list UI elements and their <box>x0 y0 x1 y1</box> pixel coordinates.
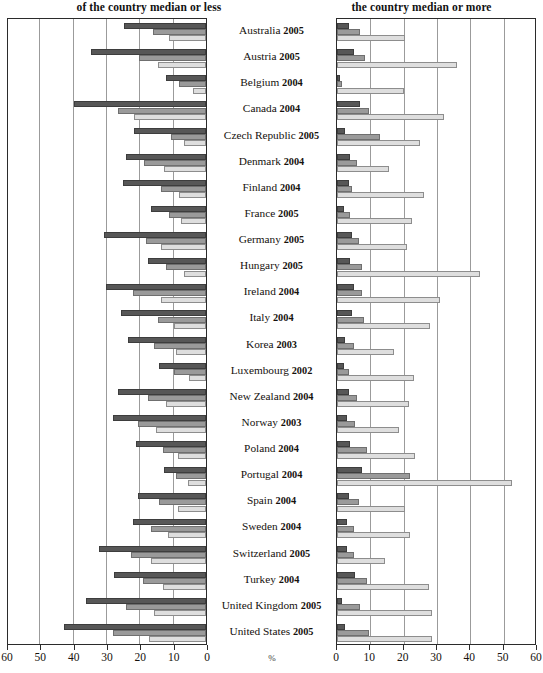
bar-left-sweden-series3 <box>168 532 206 538</box>
country-name: France <box>244 207 278 219</box>
country-name: Belgium <box>240 76 282 88</box>
bar-left-spain-series3 <box>178 506 206 512</box>
axis-tick-label: 10 <box>159 651 189 663</box>
gridline <box>39 19 40 644</box>
bar-right-korea-series2 <box>337 343 354 349</box>
country-label: Poland 2004 <box>207 442 336 455</box>
bar-left-hungary-series3 <box>184 271 206 277</box>
axis-tick <box>469 645 470 650</box>
bar-right-france-series1 <box>337 206 344 212</box>
bar-right-hungary-series3 <box>337 271 480 277</box>
bar-right-switzerland-series1 <box>337 546 347 552</box>
bar-right-hungary-series2 <box>337 264 362 270</box>
country-year: 2005 <box>299 130 320 141</box>
country-year: 2005 <box>293 626 314 637</box>
bar-left-poland-series2 <box>163 447 206 453</box>
axis-tick-label: 50 <box>25 651 55 663</box>
axis-tick-label: 60 <box>521 651 543 663</box>
bar-left-belgium-series3 <box>193 88 206 94</box>
country-label: United States 2005 <box>207 625 336 638</box>
bar-left-norway-series2 <box>138 421 206 427</box>
bar-right-united-kingdom-series3 <box>337 610 432 616</box>
left-plot-panel <box>7 18 207 645</box>
country-year: 2003 <box>276 339 297 350</box>
bar-right-poland-series3 <box>337 453 415 459</box>
country-name: Finland <box>243 181 280 193</box>
bar-left-switzerland-series3 <box>151 558 206 564</box>
bar-left-finland-series3 <box>179 192 206 198</box>
country-year: 2002 <box>292 365 313 376</box>
country-name: Sweden <box>242 520 281 532</box>
bar-left-portugal-series2 <box>176 473 206 479</box>
bar-left-spain-series1 <box>138 493 206 499</box>
country-label: Luxembourg 2002 <box>207 364 336 377</box>
right-plot-panel <box>336 18 536 645</box>
bar-right-finland-series1 <box>337 180 349 186</box>
bar-right-germany-series2 <box>337 238 359 244</box>
axis-tick-label: 20 <box>125 651 155 663</box>
bar-left-hungary-series2 <box>166 264 206 270</box>
bar-right-norway-series1 <box>337 415 347 421</box>
bar-right-sweden-series3 <box>337 532 410 538</box>
country-year: 2004 <box>282 77 303 88</box>
country-label: Ireland 2004 <box>207 285 336 298</box>
country-name: Denmark <box>239 155 284 167</box>
bar-left-turkey-series1 <box>114 572 206 578</box>
bidirectional-bar-chart: of the country median or less the countr… <box>0 0 543 673</box>
country-label: Austria 2005 <box>207 50 336 63</box>
country-year: 2004 <box>273 312 294 323</box>
axis-unit-label: % <box>257 653 287 663</box>
axis-tick <box>7 645 8 650</box>
country-label: France 2005 <box>207 207 336 220</box>
bar-left-denmark-series2 <box>144 160 206 166</box>
bar-left-united-states-series1 <box>64 624 206 630</box>
bar-right-canada-series2 <box>337 108 369 114</box>
bar-right-poland-series1 <box>337 441 350 447</box>
bar-right-turkey-series2 <box>337 578 367 584</box>
bar-left-australia-series2 <box>153 29 206 35</box>
axis-tick <box>403 645 404 650</box>
bar-right-italy-series2 <box>337 317 364 323</box>
gridline <box>470 19 471 644</box>
bar-left-italy-series3 <box>174 323 206 329</box>
bar-right-australia-series2 <box>337 29 360 35</box>
bar-left-new-zealand-series2 <box>148 395 206 401</box>
axis-tick-label: 40 <box>454 651 484 663</box>
bar-right-ireland-series3 <box>337 297 440 303</box>
bar-left-sweden-series2 <box>151 526 206 532</box>
bar-left-portugal-series1 <box>164 467 206 473</box>
bar-left-hungary-series1 <box>148 258 206 264</box>
country-name: Germany <box>239 233 284 245</box>
axis-tick <box>40 645 41 650</box>
axis-tick-label: 0 <box>192 651 222 663</box>
bar-left-korea-series3 <box>176 349 206 355</box>
bar-right-luxembourg-series2 <box>337 369 349 375</box>
bar-left-denmark-series3 <box>164 166 206 172</box>
country-label: Norway 2003 <box>207 416 336 429</box>
axis-tick <box>336 645 337 650</box>
bar-right-united-states-series2 <box>337 630 369 636</box>
bar-left-united-kingdom-series2 <box>126 604 206 610</box>
country-label: New Zealand 2004 <box>207 390 336 403</box>
bar-left-luxembourg-series3 <box>189 375 206 381</box>
bar-left-korea-series2 <box>154 343 206 349</box>
bar-left-canada-series1 <box>74 101 206 107</box>
country-name: Turkey <box>244 573 279 585</box>
bar-right-spain-series1 <box>337 493 349 499</box>
bar-right-new-zealand-series3 <box>337 401 409 407</box>
bar-left-france-series2 <box>169 212 206 218</box>
bar-left-portugal-series3 <box>188 480 206 486</box>
country-label: Turkey 2004 <box>207 573 336 586</box>
country-year: 2005 <box>283 25 304 36</box>
country-label: Czech Republic 2005 <box>207 129 336 142</box>
country-label: Portugal 2004 <box>207 468 336 481</box>
bar-right-ireland-series1 <box>337 284 354 290</box>
country-label: Australia 2005 <box>207 24 336 37</box>
bar-right-canada-series1 <box>337 101 360 107</box>
bar-right-korea-series1 <box>337 337 345 343</box>
country-year: 2004 <box>280 182 301 193</box>
bar-left-finland-series1 <box>123 180 206 186</box>
bar-right-france-series3 <box>337 218 412 224</box>
country-name: Portugal <box>241 468 282 480</box>
country-name: Korea <box>246 338 276 350</box>
